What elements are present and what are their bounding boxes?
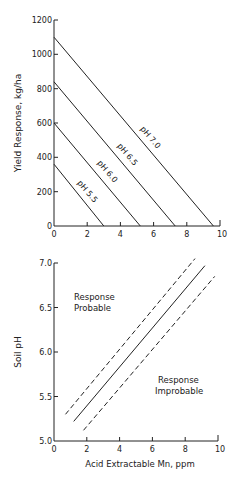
svg-text:pH 5.5: pH 5.5 (75, 179, 99, 205)
svg-text:5.0: 5.0 (39, 437, 52, 446)
svg-text:6: 6 (151, 230, 156, 239)
top-x-tick-labels: 0 2 4 6 8 10 (51, 230, 227, 239)
annotation-probable-2: Probable (74, 303, 111, 313)
line-ph-6-5 (54, 82, 175, 226)
top-y-axis-label: Yield Response, kg/ha (13, 74, 23, 173)
svg-text:1000: 1000 (32, 50, 52, 59)
annotation-improbable-2: Improbable (155, 386, 203, 396)
bottom-x-tick-labels: 0 2 4 6 8 10 (51, 445, 225, 454)
svg-text:400: 400 (37, 153, 52, 162)
top-chart (54, 20, 220, 226)
svg-text:200: 200 (37, 188, 52, 197)
svg-text:8: 8 (183, 445, 188, 454)
svg-text:8: 8 (184, 230, 189, 239)
svg-text:6.5: 6.5 (39, 304, 52, 313)
svg-text:800: 800 (37, 85, 52, 94)
annotation-improbable-1: Response (158, 375, 199, 385)
top-y-tick-labels: 0 200 400 600 800 1000 1200 (32, 16, 52, 231)
bottom-y-tick-labels: 5.0 5.5 6.0 6.5 7.0 (39, 259, 52, 446)
figure: 0 200 400 600 800 1000 1200 0 2 4 6 8 10… (0, 0, 239, 484)
critical-solid-line (74, 266, 205, 422)
bottom-y-axis-label: Soil pH (13, 336, 23, 368)
line-ph-7-0 (54, 37, 213, 226)
svg-text:pH 7.0: pH 7.0 (138, 125, 162, 151)
svg-text:2: 2 (84, 445, 89, 454)
svg-text:6: 6 (150, 445, 155, 454)
svg-text:4: 4 (118, 230, 123, 239)
svg-text:0: 0 (51, 445, 56, 454)
line-ph-6-0 (54, 123, 140, 226)
svg-text:pH 6.0: pH 6.0 (95, 159, 119, 185)
bottom-x-axis-label: Acid Extractable Mn, ppm (85, 459, 194, 469)
svg-text:0: 0 (51, 230, 56, 239)
svg-text:5.5: 5.5 (39, 393, 52, 402)
svg-text:4: 4 (117, 445, 122, 454)
svg-text:7.0: 7.0 (39, 259, 52, 268)
bottom-chart (54, 259, 218, 441)
svg-text:10: 10 (217, 230, 227, 239)
svg-text:600: 600 (37, 119, 52, 128)
svg-text:6.0: 6.0 (39, 348, 52, 357)
svg-text:1200: 1200 (32, 16, 52, 25)
svg-text:pH 6.5: pH 6.5 (115, 142, 139, 168)
svg-text:2: 2 (85, 230, 90, 239)
svg-text:10: 10 (215, 445, 225, 454)
annotation-probable-1: Response (74, 292, 115, 302)
